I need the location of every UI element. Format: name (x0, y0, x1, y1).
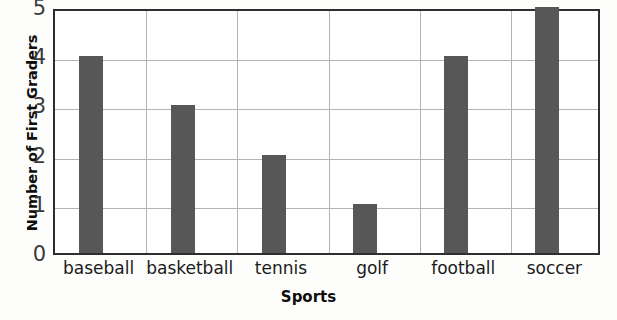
x-axis-title: Sports (0, 288, 617, 306)
bar-chart-screenshot: Number of First Graders 543210 baseballb… (0, 0, 617, 320)
x-tick-label-tennis: tennis (235, 258, 326, 278)
chart-title-cropped (0, 0, 617, 9)
y-tick-label-2: 2 (20, 146, 46, 167)
gridline-v-2 (237, 11, 238, 253)
x-tick-label-soccer: soccer (509, 258, 600, 278)
x-tick-label-football: football (418, 258, 509, 278)
gridline-h-1 (55, 208, 598, 209)
x-tick-label-baseball: baseball (53, 258, 144, 278)
gridline-h-2 (55, 159, 598, 160)
x-tick-label-golf: golf (327, 258, 418, 278)
y-tick-label-4: 4 (20, 47, 46, 68)
y-tick-label-0: 0 (20, 244, 46, 265)
bar-golf (353, 204, 377, 253)
plot-area (53, 9, 600, 255)
bar-soccer (535, 7, 559, 253)
gridline-v-3 (329, 11, 330, 253)
bar-basketball (171, 105, 195, 253)
gridline-h-4 (55, 60, 598, 61)
y-tick-label-1: 1 (20, 195, 46, 216)
bar-football (444, 56, 468, 253)
bar-tennis (262, 155, 286, 253)
gridline-h-3 (55, 109, 598, 110)
gridline-v-5 (511, 11, 512, 253)
x-tick-label-basketball: basketball (144, 258, 235, 278)
gridline-v-1 (146, 11, 147, 253)
y-tick-label-3: 3 (20, 96, 46, 117)
gridline-v-4 (420, 11, 421, 253)
bar-baseball (79, 56, 103, 253)
y-tick-label-5: 5 (20, 0, 46, 19)
